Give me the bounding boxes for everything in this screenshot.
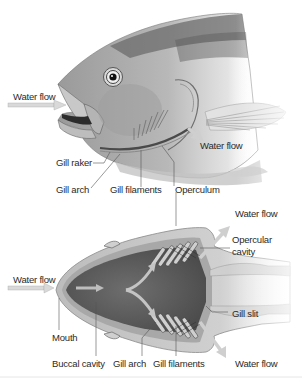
label-water-flow-out-upper: Water flow (235, 209, 278, 219)
label-water-flow-out-lower: Water flow (235, 359, 278, 369)
label-gill-filaments-bottom: Gill filaments (153, 359, 205, 369)
label-operculum: Operculum (175, 185, 220, 195)
label-gill-slit: Gill slit (232, 309, 258, 319)
label-water-flow-in-bottom: Water flow (13, 275, 56, 285)
label-opercular-cavity-line1: Opercular (232, 235, 272, 245)
label-buccal-cavity: Buccal cavity (52, 359, 105, 369)
label-gill-raker-top: Gill raker (56, 158, 92, 168)
gill-diagram: Water flow Water flow Gill raker Gill ar… (0, 0, 302, 381)
label-opercular-cavity-line2: cavity (232, 247, 255, 257)
label-gill-filaments-top: Gill filaments (110, 185, 162, 195)
label-water-flow-in-top: Water flow (13, 92, 56, 102)
fish-head-lateral (58, 0, 302, 190)
label-gill-arch-top: Gill arch (56, 185, 89, 195)
label-water-flow-out-top: Water flow (200, 141, 243, 151)
label-gill-arch-bottom: Gill arch (113, 359, 146, 369)
fish-eye (104, 68, 123, 87)
label-mouth: Mouth (52, 333, 77, 343)
